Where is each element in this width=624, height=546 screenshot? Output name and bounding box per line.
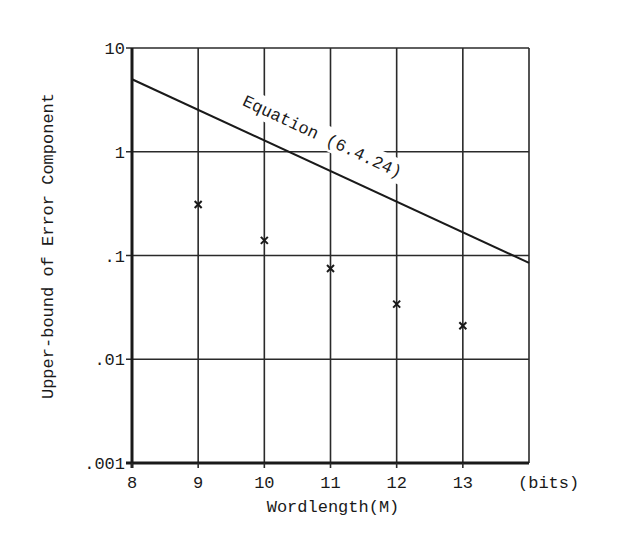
- y-tick-label: 1: [115, 144, 125, 163]
- y-tick-label: .01: [94, 351, 125, 370]
- x-tick-label: 13: [453, 474, 473, 493]
- x-tick-label: 9: [193, 474, 203, 493]
- error-bound-chart: Equation (6.4.24) 8910111213 .001.01.111…: [0, 0, 624, 546]
- y-tick-labels: .001.01.1110: [84, 40, 125, 474]
- annotation-layer: Equation (6.4.24): [234, 86, 418, 189]
- y-tick-label: .001: [84, 455, 125, 474]
- x-tick-label: 11: [320, 474, 340, 493]
- x-tick-labels: 8910111213: [127, 474, 473, 493]
- x-tick-label: 8: [127, 474, 137, 493]
- y-axis-title: Upper-bound of Error Component: [39, 93, 58, 399]
- axes: [126, 48, 529, 468]
- x-axis-title: Wordlength(M): [267, 498, 400, 517]
- y-tick-label: .1: [105, 248, 125, 267]
- grid-lines: [126, 48, 529, 463]
- x-tick-label: 10: [254, 474, 274, 493]
- equation-annotation: Equation (6.4.24): [234, 86, 418, 189]
- x-tick-label: 12: [386, 474, 406, 493]
- y-tick-label: 10: [105, 40, 125, 59]
- x-unit-label: (bits): [518, 474, 579, 493]
